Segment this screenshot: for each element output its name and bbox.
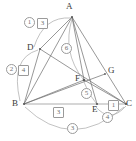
- point-label-D: D: [27, 43, 34, 52]
- point-label-C: C: [126, 99, 132, 108]
- segment-DB: [24, 49, 40, 104]
- arc-badge-6: 6: [61, 43, 72, 54]
- arc-badge-1: 1: [24, 17, 35, 28]
- geometry-figure: A D B C E F G 1 2 3 4 5 6 3 4 3 1: [0, 0, 136, 141]
- point-label-A: A: [66, 2, 73, 11]
- measure-badge-3-bottom: 3: [53, 107, 64, 118]
- arc-badge-5: 5: [81, 88, 92, 99]
- arc-badge-3: 3: [67, 123, 78, 134]
- vertex-A: [71, 16, 73, 18]
- point-label-F: F: [75, 74, 80, 83]
- vertices-group: [23, 16, 127, 105]
- vertex-F: [83, 79, 86, 82]
- vertex-G: [104, 73, 106, 75]
- arc-badge-2: 2: [6, 64, 17, 75]
- segments-group: [24, 17, 126, 104]
- point-label-B: B: [12, 99, 18, 108]
- point-label-G: G: [108, 66, 115, 75]
- segment-AB: [24, 17, 72, 104]
- vertex-D: [39, 48, 41, 50]
- arc-badge-4: 4: [102, 112, 113, 123]
- measure-badge-1-right: 1: [108, 100, 119, 111]
- measure-badge-3-top: 3: [37, 18, 48, 29]
- measure-badge-4-left: 4: [18, 65, 29, 76]
- vertex-B: [23, 103, 25, 105]
- point-label-E: E: [92, 105, 98, 114]
